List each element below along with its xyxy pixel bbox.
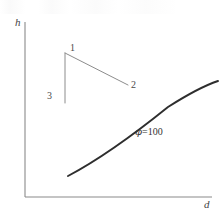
figure-container: h d 1 2 3 φ=100 <box>0 0 223 218</box>
y-axis-label: h <box>15 17 21 28</box>
x-axis-label: d <box>204 199 210 210</box>
phi-symbol: φ <box>135 126 142 137</box>
diagram-canvas <box>0 0 223 218</box>
state-point-label-3: 3 <box>47 91 52 101</box>
state-point-label-1: 1 <box>70 43 75 53</box>
phi-value: 100 <box>148 126 163 137</box>
state-point-label-2: 2 <box>131 80 136 90</box>
process-segment-1-to-2 <box>65 53 128 85</box>
saturation-curve-annotation: φ=100 <box>135 127 163 137</box>
